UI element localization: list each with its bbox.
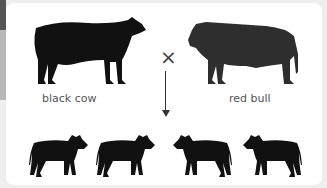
calf-icon (95, 131, 157, 179)
arrow-down-icon (162, 110, 170, 117)
cross-symbol: × (160, 47, 177, 67)
black-cow-icon (28, 14, 148, 86)
calf-icon (241, 131, 303, 179)
parent-label-left: black cow (42, 92, 96, 105)
calf-icon (28, 131, 90, 179)
arrow-line (165, 71, 166, 113)
red-bull-icon (186, 14, 306, 86)
calf-icon (171, 131, 233, 179)
parent-label-right: red bull (229, 92, 271, 105)
